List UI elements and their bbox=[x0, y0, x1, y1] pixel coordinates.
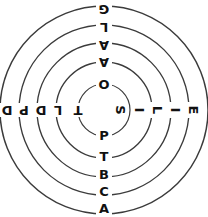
label-right-4: I bbox=[168, 102, 182, 118]
label-right-5: E bbox=[186, 102, 200, 118]
label-top-3: A bbox=[96, 38, 112, 52]
label-bottom-1: P bbox=[96, 129, 112, 143]
label-top-5: G bbox=[96, 2, 112, 16]
label-left-2: L bbox=[50, 103, 66, 117]
label-left-4: P bbox=[16, 103, 32, 117]
label-top-4: L bbox=[96, 20, 112, 34]
label-bottom-2: T bbox=[96, 150, 112, 164]
label-top-1: O bbox=[96, 77, 112, 91]
label-bottom-5: A bbox=[96, 202, 112, 216]
label-left-5: D bbox=[0, 103, 15, 117]
label-bottom-4: C bbox=[96, 185, 112, 199]
label-right-3: L bbox=[150, 102, 164, 118]
label-top-2: A bbox=[96, 55, 112, 69]
label-bottom-3: B bbox=[96, 168, 112, 182]
diagram-canvas: O A A L G P T B C A T L D P D S I L I E bbox=[0, 0, 208, 217]
label-right-2: I bbox=[132, 102, 146, 118]
label-left-3: D bbox=[33, 103, 49, 117]
label-left-1: T bbox=[70, 103, 86, 117]
label-right-1: S bbox=[113, 102, 127, 118]
